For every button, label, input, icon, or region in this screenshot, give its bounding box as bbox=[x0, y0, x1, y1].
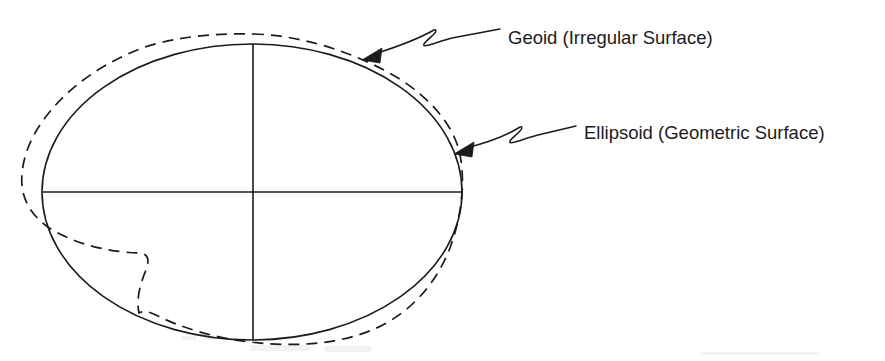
ellipsoid-callout bbox=[454, 126, 576, 157]
ellipsoid-label: Ellipsoid (Geometric Surface) bbox=[584, 122, 825, 143]
ellipsoid-leader-line bbox=[466, 126, 576, 148]
geoid-ellipsoid-diagram: Geoid (Irregular Surface) Ellipsoid (Geo… bbox=[0, 0, 885, 361]
geoid-arrow-head bbox=[362, 48, 382, 63]
geoid-label: Geoid (Irregular Surface) bbox=[508, 27, 713, 48]
geoid-leader-line bbox=[374, 29, 500, 54]
geoid-callout bbox=[362, 29, 500, 63]
geoid-outline bbox=[22, 34, 463, 345]
